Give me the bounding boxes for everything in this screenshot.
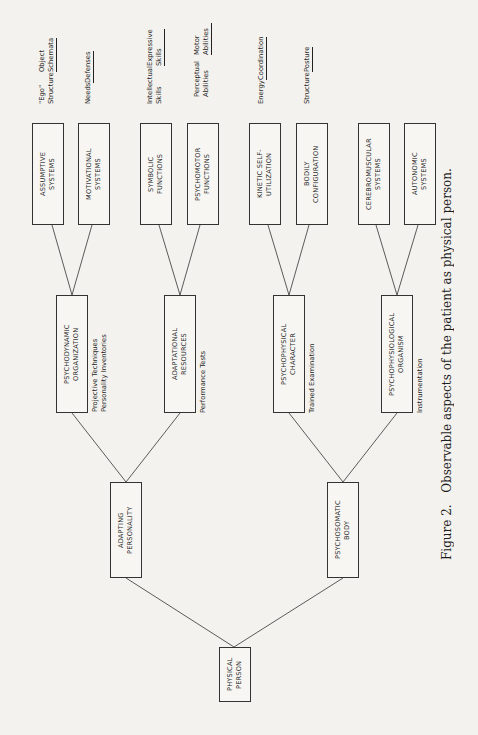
annotation-symbolic: Intellectual Skills Expressive Skills [146,40,165,104]
node-label: AUTONOMIC SYSTEMS [405,124,435,224]
annotation-bottom: Expressive Skills [146,29,165,66]
annotation-kinetic: Energy Coordination [257,58,267,104]
node-psychodynamic-organization: PSYCHODYNAMIC ORGANIZATION [56,295,88,413]
node-psychosomatic-body: PSYCHOSOMATIC BODY [327,482,359,578]
node-label: BODILY CONFIGURATION [297,124,327,224]
annotation-motivational: Needs Defenses [84,70,94,104]
node-kinetic-self-utilization: KINETIC SELF- UTILIZATION [249,123,281,225]
node-symbolic-functions: SYMBOLIC FUNCTIONS [140,123,172,225]
annotation-top: Perceptual Abilities [193,55,212,97]
figure-caption-text: Observable aspects of the patient as phy… [440,168,454,493]
annotation-top: Needs [84,83,94,104]
method-note-psychophysiological: Instrumentation [416,325,426,413]
node-psychomotor-functions: PSYCHOMOTOR FUNCTIONS [187,123,219,225]
node-adapting-personality: ADAPTING PERSONALITY [110,482,142,578]
node-motivational-systems: MOTIVATIONAL SYSTEMS [78,123,110,225]
annotation-bottom: Coordination [257,37,267,80]
node-label: PSYCHODYNAMIC ORGANIZATION [57,296,87,412]
node-assumptive-systems: ASSUMPTIVE SYSTEMS [32,123,64,225]
annotation-assumptive: "Ego" Structure Object Schemata [38,38,57,104]
node-label: PSYCHOMOTOR FUNCTIONS [188,124,218,224]
annotation-bottom: Defenses [84,51,94,83]
node-adaptational-resources: ADAPTATIONAL RESOURCES [164,295,196,413]
figure-label: Figure 2. [440,504,454,560]
node-autonomic-systems: AUTONOMIC SYSTEMS [404,123,436,225]
annotation-bottom: Object Schemata [38,38,57,72]
method-note-psychodynamic: Projective Techniques Personality Invent… [91,312,111,412]
method-note-psychophysical: Trained Examination [308,317,318,413]
annotation-bodily: Structure Posture [303,68,313,104]
node-label: PHYSICAL PERSON [220,648,250,701]
node-label: ADAPTING PERSONALITY [111,483,141,577]
annotation-top: Intellectual Skills [146,66,165,104]
annotation-bottom: Motor Abilities [193,23,212,55]
node-label: KINETIC SELF- UTILIZATION [250,124,280,224]
annotation-top: Energy [257,80,267,104]
node-physical-person: PHYSICAL PERSON [219,647,251,702]
node-psychophysical-character: PSYCHOPHYSICAL CHARACTER [273,295,305,413]
annotation-top: "Ego" Structure [38,72,57,104]
node-bodily-configuration: BODILY CONFIGURATION [296,123,328,225]
node-label: PSYCHOPHYSICAL CHARACTER [274,296,304,412]
node-label: SYMBOLIC FUNCTIONS [141,124,171,224]
annotation-top: Structure [303,72,313,104]
annotation-psychomotor: Perceptual Abilities Motor Abilities [193,23,212,97]
node-label: ADAPTATIONAL RESOURCES [165,296,195,412]
figure-caption: Figure 2. Observable aspects of the pati… [440,200,454,560]
node-label: MOTIVATIONAL SYSTEMS [79,124,109,224]
node-label: PSYCHOSOMATIC BODY [328,483,358,577]
node-cerebromuscular-systems: CEREBROMUSCULAR SYSTEMS [358,123,390,225]
annotation-bottom: Posture [303,47,313,72]
method-note-adaptational: Performance Tests [199,335,209,413]
node-psychophysiological-organism: PSYCHOPHYSIOLOGICAL ORGANISM [381,295,413,413]
node-label: CEREBROMUSCULAR SYSTEMS [359,124,389,224]
node-label: PSYCHOPHYSIOLOGICAL ORGANISM [382,296,412,412]
node-label: ASSUMPTIVE SYSTEMS [33,124,63,224]
